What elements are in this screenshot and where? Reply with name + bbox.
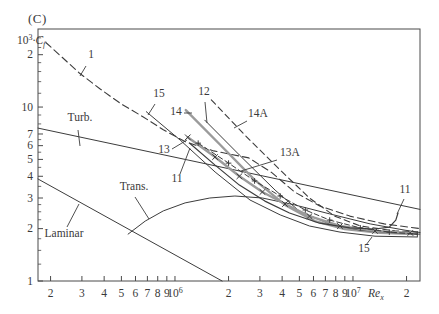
label-pointer bbox=[148, 104, 155, 115]
x-tick-label: 107 bbox=[345, 286, 361, 299]
x-tick-label: 2 bbox=[48, 287, 54, 299]
annotation-11-right: 11 bbox=[397, 183, 411, 214]
curve-label-14: 14 bbox=[170, 105, 182, 117]
panel-label: (C) bbox=[28, 11, 47, 27]
curve-15 bbox=[146, 112, 417, 237]
series-14 bbox=[186, 110, 414, 234]
label-pointer bbox=[67, 204, 79, 227]
x-tick-label: 6 bbox=[311, 287, 317, 299]
curve-label-11-left: 11 bbox=[171, 172, 182, 184]
x-tick-label: 3 bbox=[79, 287, 85, 299]
label-pointer bbox=[180, 148, 190, 174]
annotation-trans: Trans. bbox=[120, 180, 149, 219]
label-pointer bbox=[135, 197, 149, 219]
curve-label-14A: 14A bbox=[248, 107, 269, 119]
curve-label-1: 1 bbox=[88, 48, 94, 60]
annotation-14: 14 bbox=[170, 105, 192, 117]
x-tick-label: 5 bbox=[119, 287, 125, 299]
annotation-14A: 14A bbox=[234, 107, 269, 128]
y-tick-label: 7 bbox=[27, 128, 33, 140]
curve-label-15-bot: 15 bbox=[358, 242, 370, 254]
curve-label-15-top: 15 bbox=[153, 87, 165, 99]
label-pointer bbox=[234, 121, 247, 128]
x-axis: 23456789106234567891072 bbox=[48, 276, 410, 299]
annotation-turb: Turb. bbox=[68, 111, 93, 146]
annotation-15-top: 15 bbox=[148, 87, 165, 115]
x-tick-label: 7 bbox=[323, 287, 329, 299]
y-tick-label: 1 bbox=[27, 275, 33, 287]
curve-label-13: 13 bbox=[158, 143, 170, 155]
chart-svg: 234567891062345678910722107654321103·CfR… bbox=[0, 0, 439, 314]
curve-1 bbox=[46, 43, 420, 229]
x-axis-title: Rex bbox=[367, 287, 384, 302]
y-axis: 2107654321 bbox=[22, 38, 44, 287]
y-axis-title: 103·Cf bbox=[17, 33, 47, 49]
annotation-13A: 13A bbox=[241, 146, 301, 171]
label-pointer bbox=[205, 102, 207, 123]
curve-label-11-right: 11 bbox=[399, 183, 410, 195]
x-tick-label: 106 bbox=[167, 286, 183, 299]
x-tick-label: 7 bbox=[145, 287, 151, 299]
y-tick-label: 5 bbox=[27, 153, 33, 165]
y-tick-label: 2 bbox=[27, 222, 33, 234]
x-tick-label: 2 bbox=[226, 287, 232, 299]
x-tick-label: 3 bbox=[257, 287, 263, 299]
annotation-11-left: 11 bbox=[171, 148, 190, 184]
x-tick-label: 6 bbox=[133, 287, 139, 299]
x-tick-label: 4 bbox=[279, 287, 285, 299]
annotation-15-bot: 15 bbox=[358, 237, 372, 254]
y-tick-label: 6 bbox=[27, 139, 33, 151]
annotation-1: 1 bbox=[80, 48, 94, 76]
y-tick-label: 2 bbox=[27, 48, 33, 60]
curve-14 bbox=[186, 110, 414, 234]
y-tick-label: 4 bbox=[27, 170, 33, 182]
y-tick-label: 10 bbox=[22, 101, 34, 113]
label-pointer bbox=[80, 66, 86, 76]
curve-label-turb: Turb. bbox=[68, 111, 93, 123]
label-pointer bbox=[78, 130, 80, 146]
label-pointer bbox=[397, 199, 404, 214]
x-tick-label: 4 bbox=[101, 287, 107, 299]
curve-label-laminar: Laminar bbox=[45, 227, 84, 239]
series-1 bbox=[46, 43, 420, 229]
x-tick-label: 8 bbox=[333, 287, 339, 299]
annotation-laminar: Laminar bbox=[45, 204, 84, 239]
curve-label-13A: 13A bbox=[280, 146, 301, 158]
series-15 bbox=[146, 112, 417, 237]
x-tick-label: 2 bbox=[404, 287, 410, 299]
curve-label-12: 12 bbox=[198, 85, 210, 97]
y-tick-label: 3 bbox=[27, 192, 33, 204]
curve-label-trans: Trans. bbox=[120, 180, 149, 192]
annotation-13: 13 bbox=[158, 140, 187, 155]
x-tick-label: 5 bbox=[297, 287, 303, 299]
annotation-12: 12 bbox=[198, 85, 210, 123]
skin-friction-chart-figure: (C) 234567891062345678910722107654321103… bbox=[0, 0, 439, 314]
x-tick-label: 8 bbox=[155, 287, 161, 299]
